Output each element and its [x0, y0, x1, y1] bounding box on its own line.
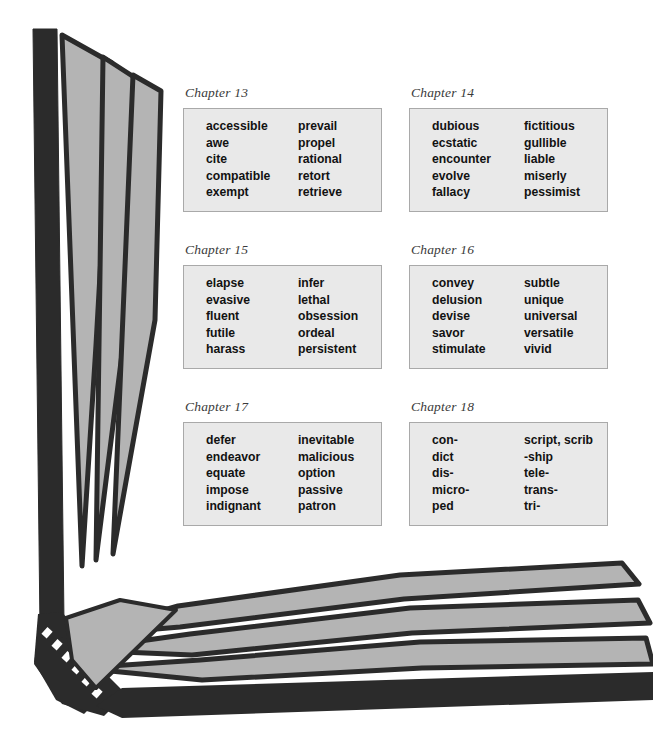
- chapter-block: Chapter 13 accessible awe cite compatibl…: [183, 86, 382, 218]
- vocabulary-word: impose: [206, 482, 298, 499]
- vocabulary-word: passive: [298, 482, 381, 499]
- vocabulary-word: delusion: [432, 292, 524, 309]
- vocabulary-word: convey: [432, 275, 524, 292]
- vocabulary-word: gullible: [524, 135, 607, 152]
- chapter-block: Chapter 15 elapse evasive fluent futile …: [183, 243, 382, 375]
- vocabulary-word: ecstatic: [432, 135, 524, 152]
- vocabulary-word: rational: [298, 151, 381, 168]
- word-column-right: prevail propel rational retort retrieve: [298, 118, 381, 201]
- vocabulary-word: persistent: [298, 341, 381, 358]
- vocabulary-word: propel: [298, 135, 381, 152]
- chapter-label: Chapter 14: [411, 86, 608, 100]
- vocabulary-word: versatile: [524, 325, 607, 342]
- vocabulary-word: futile: [206, 325, 298, 342]
- vocabulary-word: inevitable: [298, 432, 381, 449]
- word-column-left: dubious ecstatic encounter evolve fallac…: [432, 118, 524, 201]
- vocabulary-word: retort: [298, 168, 381, 185]
- vocabulary-word: dubious: [432, 118, 524, 135]
- vocabulary-word: compatible: [206, 168, 298, 185]
- vocabulary-word: option: [298, 465, 381, 482]
- vocabulary-word: trans-: [524, 482, 607, 499]
- vocabulary-word: defer: [206, 432, 298, 449]
- vocabulary-word: obsession: [298, 308, 381, 325]
- word-box: accessible awe cite compatible exempt pr…: [183, 108, 382, 212]
- vocabulary-word: miserly: [524, 168, 607, 185]
- chapter-word-list-grid: Chapter 13 accessible awe cite compatibl…: [183, 86, 608, 532]
- vocabulary-word: cite: [206, 151, 298, 168]
- vocabulary-word: exempt: [206, 184, 298, 201]
- vocabulary-word: evasive: [206, 292, 298, 309]
- vocabulary-word: script, scrib: [524, 432, 607, 449]
- chapter-label: Chapter 17: [185, 400, 382, 414]
- book-spine-vertical: [33, 29, 64, 628]
- vocabulary-word: unique: [524, 292, 607, 309]
- word-column-right: subtle unique universal versatile vivid: [524, 275, 607, 358]
- vocabulary-word: encounter: [432, 151, 524, 168]
- vocabulary-word: universal: [524, 308, 607, 325]
- word-column-right: infer lethal obsession ordeal persistent: [298, 275, 381, 358]
- vocabulary-word: fluent: [206, 308, 298, 325]
- chapter-block: Chapter 17 defer endeavor equate impose …: [183, 400, 382, 532]
- vocabulary-word: dict: [432, 449, 524, 466]
- chapter-block: Chapter 16 convey delusion devise savor …: [409, 243, 608, 375]
- chapter-label: Chapter 13: [185, 86, 382, 100]
- vocabulary-word: lethal: [298, 292, 381, 309]
- word-box: dubious ecstatic encounter evolve fallac…: [409, 108, 608, 212]
- vocabulary-word: fictitious: [524, 118, 607, 135]
- vocabulary-word: devise: [432, 308, 524, 325]
- vocabulary-word: retrieve: [298, 184, 381, 201]
- vocabulary-word: -ship: [524, 449, 607, 466]
- word-column-right: script, scrib -ship tele- trans- tri-: [524, 432, 607, 515]
- word-box: convey delusion devise savor stimulate s…: [409, 265, 608, 369]
- word-column-right: inevitable malicious option passive patr…: [298, 432, 381, 515]
- vocabulary-word: dis-: [432, 465, 524, 482]
- vocabulary-word: ped: [432, 498, 524, 515]
- vocabulary-word: elapse: [206, 275, 298, 292]
- vocabulary-word: micro-: [432, 482, 524, 499]
- vocabulary-word: endeavor: [206, 449, 298, 466]
- word-box: defer endeavor equate impose indignant i…: [183, 422, 382, 526]
- word-box: elapse evasive fluent futile harass infe…: [183, 265, 382, 369]
- vocabulary-word: liable: [524, 151, 607, 168]
- word-column-left: con- dict dis- micro- ped: [432, 432, 524, 515]
- chapter-label: Chapter 15: [185, 243, 382, 257]
- vocabulary-word: indignant: [206, 498, 298, 515]
- word-column-left: elapse evasive fluent futile harass: [206, 275, 298, 358]
- chapter-block: Chapter 18 con- dict dis- micro- ped scr…: [409, 400, 608, 532]
- vocabulary-word: evolve: [432, 168, 524, 185]
- word-column-left: convey delusion devise savor stimulate: [432, 275, 524, 358]
- vocabulary-word: infer: [298, 275, 381, 292]
- vocabulary-word: subtle: [524, 275, 607, 292]
- vocabulary-word: equate: [206, 465, 298, 482]
- chapter-block: Chapter 14 dubious ecstatic encounter ev…: [409, 86, 608, 218]
- vocabulary-word: harass: [206, 341, 298, 358]
- vocabulary-word: accessible: [206, 118, 298, 135]
- word-column-right: fictitious gullible liable miserly pessi…: [524, 118, 607, 201]
- vocabulary-word: fallacy: [432, 184, 524, 201]
- vocabulary-word: prevail: [298, 118, 381, 135]
- vocabulary-word: ordeal: [298, 325, 381, 342]
- vocabulary-word: con-: [432, 432, 524, 449]
- vocabulary-word: pessimist: [524, 184, 607, 201]
- word-column-left: defer endeavor equate impose indignant: [206, 432, 298, 515]
- vocabulary-word: savor: [432, 325, 524, 342]
- vocabulary-word: tele-: [524, 465, 607, 482]
- vocabulary-word: patron: [298, 498, 381, 515]
- chapter-label: Chapter 16: [411, 243, 608, 257]
- word-column-left: accessible awe cite compatible exempt: [206, 118, 298, 201]
- vocabulary-word: awe: [206, 135, 298, 152]
- chapter-label: Chapter 18: [411, 400, 608, 414]
- vocabulary-word: stimulate: [432, 341, 524, 358]
- vocabulary-word: malicious: [298, 449, 381, 466]
- vocabulary-word: vivid: [524, 341, 607, 358]
- word-box: con- dict dis- micro- ped script, scrib …: [409, 422, 608, 526]
- vocabulary-word: tri-: [524, 498, 607, 515]
